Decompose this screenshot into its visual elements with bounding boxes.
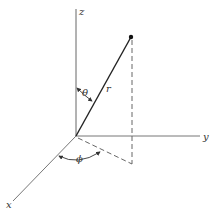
radius-label: r [106, 83, 112, 94]
x-axis-label: x [6, 199, 12, 210]
point-p [129, 35, 133, 39]
theta-label: θ [82, 87, 88, 98]
spherical-coordinates-diagram: z y x r θ ϕ [0, 0, 220, 210]
z-axis-label: z [78, 6, 85, 17]
x-axis [13, 136, 76, 201]
phi-label: ϕ [76, 153, 83, 164]
planar-projection-dashed [78, 138, 132, 164]
y-axis-label: y [202, 131, 209, 142]
